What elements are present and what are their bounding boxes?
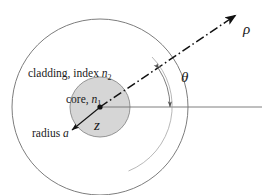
- radius-label-text: radius: [32, 127, 63, 139]
- core-label-subscript: 1: [97, 99, 101, 108]
- cladding-label-text: cladding, index: [28, 67, 102, 80]
- z-axis-label: z: [93, 117, 100, 133]
- core-label-text: core,: [66, 93, 92, 106]
- cladding-label-subscript: 2: [108, 73, 112, 82]
- radius-label-symbol: a: [63, 127, 69, 139]
- theta-label: θ: [181, 69, 189, 85]
- fiber-cross-section-figure: cladding, index n2 core, n1 radius a z ρ…: [0, 0, 265, 195]
- fiber-diagram-canvas: cladding, index n2 core, n1 radius a z ρ…: [0, 0, 265, 195]
- radius-label: radius a: [32, 127, 69, 139]
- rho-label: ρ: [242, 21, 250, 37]
